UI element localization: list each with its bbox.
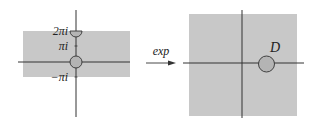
label-pi-i: πi [59, 39, 68, 53]
left-strip-panel: 2πi πi −πi [18, 10, 130, 117]
label-minus-pi-i: −πi [51, 70, 68, 84]
arrow-label-exp: exp [153, 44, 170, 58]
label-2pi-i: 2πi [53, 24, 68, 38]
right-plane-panel: D [183, 10, 304, 118]
arrow-head-icon [168, 61, 176, 66]
exp-mapping-diagram: 2πi πi −πi exp D [0, 0, 318, 127]
disk-origin [70, 56, 82, 68]
label-D: D [269, 40, 280, 55]
disk-D [259, 56, 275, 72]
plane-region [189, 14, 297, 116]
exp-arrow: exp [146, 44, 176, 66]
